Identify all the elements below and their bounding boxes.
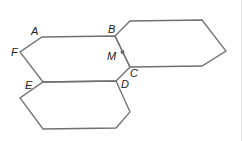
label-b: B: [108, 23, 115, 35]
label-f: F: [11, 46, 19, 58]
point-m-dot: [121, 50, 125, 54]
label-e: E: [25, 79, 33, 91]
hexagon-upper-right: [115, 20, 226, 67]
label-a: A: [30, 25, 38, 37]
hexagon-lower: [20, 81, 130, 129]
label-d: D: [121, 78, 129, 90]
hexagon-diagram: A B F M C E D: [0, 0, 244, 141]
label-m: M: [107, 50, 117, 62]
label-c: C: [130, 67, 138, 79]
